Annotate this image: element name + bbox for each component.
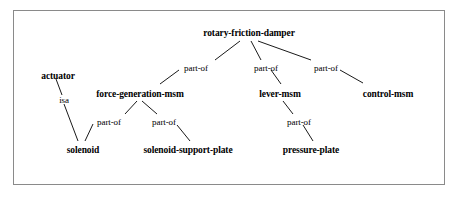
node-solenoid[interactable]: solenoid xyxy=(67,145,99,156)
edge-label-part-of-solenoid-support-plate: part-of xyxy=(152,117,176,127)
ontology-diagram: rotary-friction-damper actuator force-ge… xyxy=(0,0,458,197)
node-pressure-plate[interactable]: pressure-plate xyxy=(283,145,339,156)
edge-line-lever-msm-pressure-plate-upper xyxy=(283,101,293,114)
node-actuator[interactable]: actuator xyxy=(41,71,75,82)
edge-line-lever-msm-pressure-plate-lower xyxy=(303,125,313,141)
edge-label-part-of-force-generation-msm: part-of xyxy=(184,63,208,73)
edge-label-isa-actuator-solenoid: isa xyxy=(59,95,69,105)
edge-line-force-generation-msm-solenoid-lower xyxy=(85,124,93,141)
edge-line-root-control-msm-upper xyxy=(258,41,311,60)
edge-line-root-force-generation-msm-lower xyxy=(160,70,179,84)
edge-label-part-of-solenoid: part-of xyxy=(97,117,121,127)
edge-line-root-lever-msm-upper xyxy=(251,41,261,60)
edge-line-root-control-msm-lower xyxy=(340,70,363,83)
node-rotary-friction-damper[interactable]: rotary-friction-damper xyxy=(203,28,295,39)
edge-line-force-generation-msm-solenoid-support-plate-lower xyxy=(177,125,190,141)
edge-line-force-generation-msm-solenoid-upper xyxy=(125,101,137,114)
edge-label-part-of-pressure-plate: part-of xyxy=(287,117,311,127)
node-control-msm[interactable]: control-msm xyxy=(363,89,413,100)
node-lever-msm[interactable]: lever-msm xyxy=(259,89,300,100)
edge-line-actuator-solenoid-lower xyxy=(64,104,78,141)
node-force-generation-msm[interactable]: force-generation-msm xyxy=(96,89,184,100)
node-solenoid-support-plate[interactable]: solenoid-support-plate xyxy=(143,145,232,156)
edge-label-part-of-lever-msm: part-of xyxy=(254,63,278,73)
edge-line-root-force-generation-msm-upper xyxy=(215,41,240,60)
edge-label-part-of-control-msm: part-of xyxy=(314,63,338,73)
edge-line-force-generation-msm-solenoid-support-plate-upper xyxy=(142,101,157,114)
